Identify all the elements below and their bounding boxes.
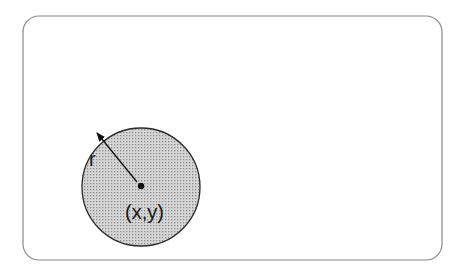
center-point (138, 183, 144, 189)
center-coordinates-label: (x,y) (125, 202, 164, 222)
frame-rectangle (23, 16, 442, 260)
radius-label: r (89, 149, 96, 169)
diagram-canvas (0, 0, 465, 273)
